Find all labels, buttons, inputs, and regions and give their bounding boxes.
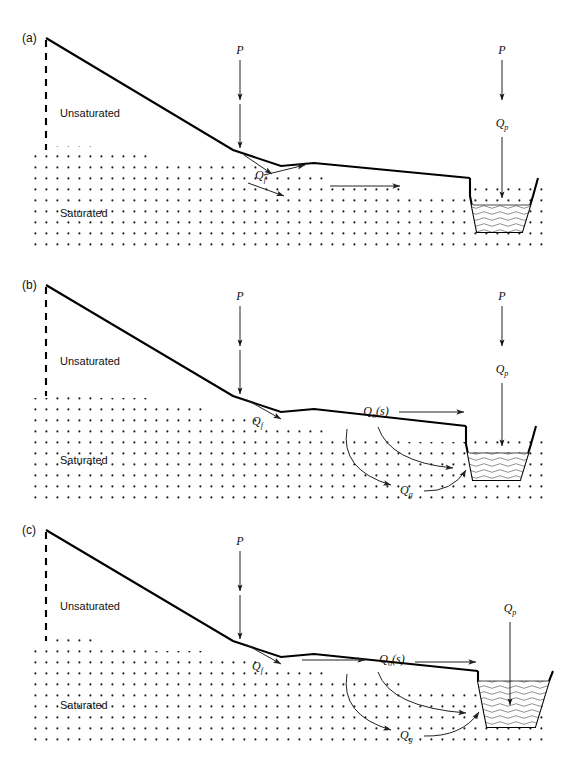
hillslope-runoff-figure: (a) P Qf bbox=[0, 0, 580, 772]
precipitation-label-b: P bbox=[235, 289, 244, 303]
channel-precip-p-label-a: P bbox=[497, 43, 506, 57]
panel-a-label: (a) bbox=[22, 31, 37, 45]
channel-precip-p-label-b: P bbox=[497, 289, 506, 303]
unsaturated-label-c: Unsaturated bbox=[60, 600, 120, 612]
overland-flow-label-c: Qo(s) bbox=[379, 652, 404, 668]
precipitation-label-c: P bbox=[235, 534, 244, 548]
panel-b-label: (b) bbox=[22, 278, 37, 292]
saturated-label-a: Saturated bbox=[60, 207, 108, 219]
panel-c-label: (c) bbox=[22, 523, 36, 537]
precipitation-label-a: P bbox=[235, 43, 244, 57]
saturated-label-c: Saturated bbox=[60, 699, 108, 711]
unsaturated-label-b: Unsaturated bbox=[60, 355, 120, 367]
unsaturated-label-a: Unsaturated bbox=[60, 107, 120, 119]
overland-flow-label-b: Qo(s) bbox=[363, 404, 388, 420]
saturated-label-b: Saturated bbox=[60, 454, 108, 466]
